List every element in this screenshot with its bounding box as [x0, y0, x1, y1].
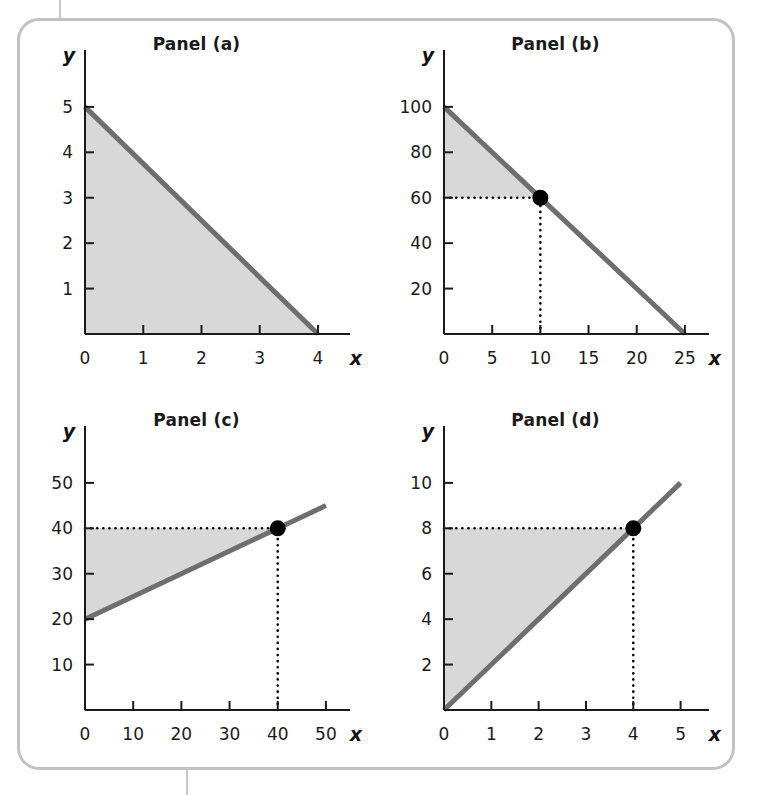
- x-tick-label: 0: [439, 348, 450, 368]
- panel-d: Panel (d) 012345246810yx: [376, 394, 735, 770]
- point-b: [532, 190, 548, 206]
- x-tick-label: 1: [486, 724, 497, 744]
- bottom-edge-rule: [186, 770, 188, 795]
- x-tick-label: 25: [674, 348, 696, 368]
- x-tick-label: 0: [80, 348, 91, 368]
- panel-a-plot: 0123412345yx: [17, 18, 376, 394]
- x-tick-label: 4: [313, 348, 324, 368]
- x-axis-label: x: [708, 347, 722, 369]
- x-tick-label: 50: [315, 724, 337, 744]
- x-tick-label: 5: [487, 348, 498, 368]
- figure-page: Panel (a) 0123412345yx Panel (b) 0510152…: [0, 0, 768, 795]
- x-axis-label: x: [708, 723, 722, 745]
- panel-a: Panel (a) 0123412345yx: [17, 18, 376, 394]
- y-tick-label: 40: [51, 518, 73, 538]
- y-tick-label: 8: [421, 518, 432, 538]
- y-axis-label: y: [63, 420, 77, 442]
- x-tick-label: 10: [122, 724, 144, 744]
- panel-c: Panel (c) 010203040501020304050yx: [17, 394, 376, 770]
- y-tick-label: 20: [410, 279, 432, 299]
- y-axis-label: y: [63, 44, 77, 66]
- x-tick-label: 1: [138, 348, 149, 368]
- y-tick-label: 2: [62, 233, 73, 253]
- panel-d-plot: 012345246810yx: [376, 394, 735, 770]
- x-tick-label: 2: [533, 724, 544, 744]
- x-tick-label: 3: [581, 724, 592, 744]
- panel-b: Panel (b) 051015202520406080100yx: [376, 18, 735, 394]
- panel-c-plot: 010203040501020304050yx: [17, 394, 376, 770]
- y-tick-label: 6: [421, 564, 432, 584]
- x-tick-label: 20: [171, 724, 193, 744]
- x-tick-label: 0: [80, 724, 91, 744]
- y-tick-label: 100: [400, 97, 432, 117]
- point-d: [625, 520, 641, 536]
- y-tick-label: 3: [62, 188, 73, 208]
- y-tick-label: 5: [62, 97, 73, 117]
- x-tick-label: 3: [254, 348, 265, 368]
- x-tick-label: 4: [628, 724, 639, 744]
- panel-b-plot: 051015202520406080100yx: [376, 18, 735, 394]
- y-tick-label: 80: [410, 142, 432, 162]
- y-tick-label: 2: [421, 655, 432, 675]
- y-tick-label: 40: [410, 233, 432, 253]
- y-axis-label: y: [422, 44, 436, 66]
- x-axis-label: x: [349, 347, 363, 369]
- y-tick-label: 20: [51, 609, 73, 629]
- x-tick-label: 2: [196, 348, 207, 368]
- x-tick-label: 40: [267, 724, 289, 744]
- x-tick-label: 10: [530, 348, 552, 368]
- y-tick-label: 30: [51, 564, 73, 584]
- line-b: [444, 107, 685, 334]
- x-tick-label: 15: [578, 348, 600, 368]
- panel-grid: Panel (a) 0123412345yx Panel (b) 0510152…: [17, 18, 735, 770]
- x-tick-label: 30: [219, 724, 241, 744]
- y-tick-label: 60: [410, 188, 432, 208]
- y-tick-label: 4: [421, 609, 432, 629]
- y-tick-label: 1: [62, 279, 73, 299]
- x-tick-label: 20: [626, 348, 648, 368]
- y-tick-label: 4: [62, 142, 73, 162]
- x-tick-label: 0: [439, 724, 450, 744]
- y-tick-label: 10: [410, 473, 432, 493]
- x-tick-label: 5: [675, 724, 686, 744]
- y-tick-label: 50: [51, 473, 73, 493]
- point-c: [270, 520, 286, 536]
- y-tick-label: 10: [51, 655, 73, 675]
- y-axis-label: y: [422, 420, 436, 442]
- x-axis-label: x: [349, 723, 363, 745]
